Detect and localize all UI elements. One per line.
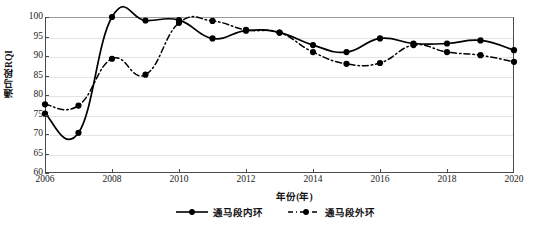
- series-line: [45, 7, 514, 140]
- series-layer: [45, 17, 514, 173]
- data-point: [109, 14, 115, 20]
- x-axis-tick-label: 2014: [304, 175, 323, 185]
- x-axis-tick-label: 2006: [36, 175, 55, 185]
- data-point: [42, 101, 48, 107]
- data-point: [444, 40, 450, 46]
- x-axis-title: 年份(年): [0, 189, 549, 203]
- y-axis-tick-mark: [45, 173, 49, 174]
- legend-item-inner-ring[interactable]: 通马段内环: [175, 205, 263, 219]
- y-axis-tick-label: 85: [3, 71, 43, 81]
- data-point: [109, 56, 115, 62]
- data-point: [343, 61, 349, 67]
- x-axis-tick-label: 2012: [237, 175, 256, 185]
- data-point: [243, 27, 249, 33]
- y-axis-tick-mark: [45, 115, 49, 116]
- y-axis-tick-label: 80: [3, 90, 43, 100]
- legend-item-outer-ring[interactable]: 通马段外环: [287, 205, 375, 219]
- x-axis-tick-mark: [313, 169, 314, 173]
- x-axis-tick-label: 2018: [438, 175, 457, 185]
- x-axis-tick-mark: [447, 169, 448, 173]
- y-axis-tick-mark: [45, 17, 49, 18]
- series-outer-ring: [42, 17, 517, 110]
- y-axis-tick-label: 100: [3, 12, 43, 22]
- y-axis-tick-mark: [45, 95, 49, 96]
- y-axis-tick-mark: [45, 56, 49, 57]
- data-point: [410, 42, 416, 48]
- data-point: [310, 42, 316, 48]
- y-axis-tick-label: 95: [3, 32, 43, 42]
- y-axis-tick-labels: 6065707580859095100: [0, 17, 43, 173]
- data-point: [75, 102, 81, 108]
- x-axis-tick-mark: [380, 169, 381, 173]
- data-point: [142, 72, 148, 78]
- y-axis-tick-label: 70: [3, 129, 43, 139]
- y-axis-tick-mark: [45, 154, 49, 155]
- x-axis-tick-mark: [112, 169, 113, 173]
- data-point: [511, 59, 517, 65]
- data-point: [477, 52, 483, 58]
- y-axis-tick-label: 65: [3, 149, 43, 159]
- x-axis-tick-mark: [246, 169, 247, 173]
- y-axis-tick-label: 75: [3, 110, 43, 120]
- legend-label-outer-ring: 通马段外环: [325, 205, 375, 219]
- x-axis-tick-label: 2010: [170, 175, 189, 185]
- legend-line-dashdot-icon: [287, 207, 321, 217]
- data-point: [276, 30, 282, 36]
- x-axis-tick-label: 2020: [505, 175, 524, 185]
- series-inner-ring: [42, 7, 517, 140]
- data-point: [477, 37, 483, 43]
- data-point: [142, 17, 148, 23]
- legend-label-inner-ring: 通马段内环: [213, 205, 263, 219]
- data-point: [209, 35, 215, 41]
- x-axis-tick-mark: [179, 169, 180, 173]
- data-point: [75, 130, 81, 136]
- legend-line-solid-icon: [175, 207, 209, 217]
- y-axis-tick-mark: [45, 76, 49, 77]
- data-point: [209, 18, 215, 24]
- data-point: [343, 49, 349, 55]
- x-axis-tick-labels: 20062008201020122014201620182020: [0, 175, 549, 189]
- data-point: [377, 60, 383, 66]
- x-axis-tick-label: 2016: [371, 175, 390, 185]
- y-axis-tick-label: 90: [3, 51, 43, 61]
- rqi-line-chart: 通马段RQI 6065707580859095100 2006200820102…: [0, 0, 549, 232]
- data-point: [511, 47, 517, 53]
- y-axis-tick-mark: [45, 37, 49, 38]
- x-axis-tick-label: 2008: [103, 175, 122, 185]
- data-point: [310, 49, 316, 55]
- data-point: [444, 49, 450, 55]
- data-point: [377, 35, 383, 41]
- y-axis-tick-mark: [45, 134, 49, 135]
- chart-legend: 通马段内环 通马段外环: [0, 205, 549, 219]
- data-point: [176, 20, 182, 26]
